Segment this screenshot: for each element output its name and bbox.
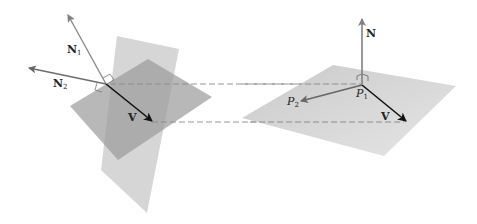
n1-label: N1 [67,43,82,57]
plane-right [242,65,456,156]
n-label: N [366,27,376,40]
n2-vector [29,68,106,84]
v-label-left: V [127,111,137,124]
v-label-right: V [380,110,390,123]
n2-label: N2 [53,77,68,91]
diagram-canvas: N1 N2 V N P1 P2 V [0,0,477,224]
right-figure: N P1 P2 V [242,19,456,156]
left-figure: N1 N2 V [29,15,212,213]
